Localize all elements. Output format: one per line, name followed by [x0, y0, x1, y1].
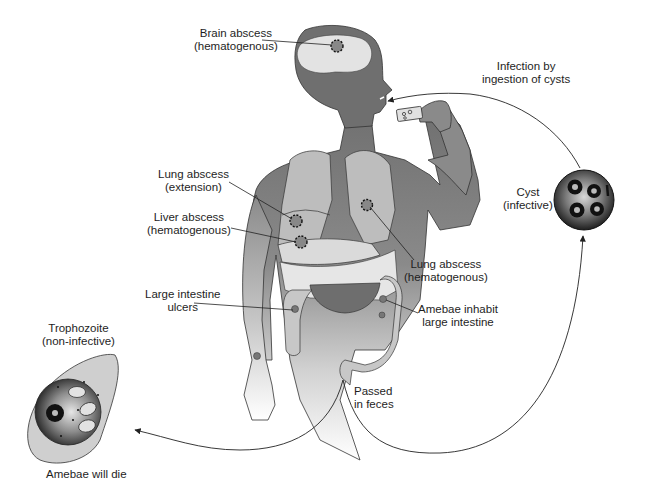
label-lung-abscess-hematogenous: Lung abscess (hematogenous) [404, 258, 488, 284]
label-cyst: Cyst (infective) [503, 186, 553, 212]
label-trophozoite: Trophozoite (non-infective) [42, 322, 115, 348]
lung-abscess-extension [290, 215, 302, 227]
lung-abscess-hematogenous [362, 200, 373, 211]
label-lung-abscess-extension: Lung abscess (extension) [158, 168, 229, 194]
label-large-intestine-ulcers: Large intestine ulcers [145, 288, 220, 314]
ulcer-1 [292, 306, 299, 313]
ulcer-3 [379, 312, 385, 318]
wrist-lesion [254, 353, 261, 360]
label-infection-ingestion: Infection by ingestion of cysts [482, 60, 570, 86]
trophozoite-illustration [28, 354, 119, 463]
liver-abscess [295, 236, 307, 248]
label-liver-abscess: Liver abscess (hematogenous) [147, 211, 231, 237]
arrow-cyst-to-mouth [388, 93, 580, 168]
label-passed-in-feces: Passed in feces [354, 385, 394, 411]
label-brain-abscess: Brain abscess (hematogenous) [194, 27, 278, 53]
ulcer-2 [380, 296, 387, 303]
label-amebae-inhabit: Amebae inhabit large intestine [418, 303, 498, 329]
brain-abscess [331, 40, 343, 52]
label-amebae-will-die: Amebae will die [46, 468, 127, 481]
cyst-illustration [554, 170, 614, 230]
